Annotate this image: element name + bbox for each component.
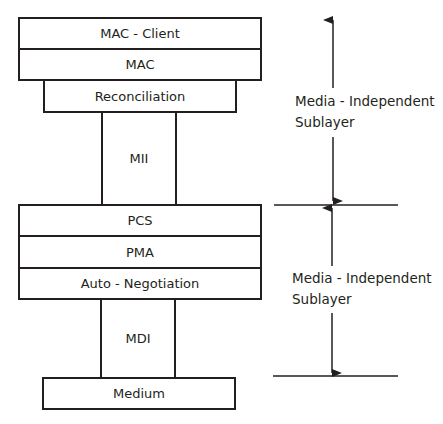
pcs-box: PCS xyxy=(18,204,262,237)
reconciliation-box: Reconciliation xyxy=(43,79,237,113)
pcs-label: PCS xyxy=(127,213,152,228)
mac-box: MAC xyxy=(18,48,262,81)
mdi-box: MDI xyxy=(100,297,176,379)
mdi-label: MDI xyxy=(125,331,150,346)
mac-label: MAC xyxy=(126,57,155,72)
upper-annotation: Media - Independent Sublayer xyxy=(295,91,435,133)
lower-annotation: Media - Independent Sublayer xyxy=(292,268,432,310)
reconciliation-label: Reconciliation xyxy=(95,89,186,104)
pma-box: PMA xyxy=(18,235,262,269)
medium-label: Medium xyxy=(113,386,165,401)
lower-annotation-line2: Sublayer xyxy=(292,289,432,310)
mac-client-box: MAC - Client xyxy=(18,17,262,50)
auto-negotiation-box: Auto - Negotiation xyxy=(18,267,262,300)
mac-client-label: MAC - Client xyxy=(100,26,180,41)
mii-label: MII xyxy=(130,151,149,166)
medium-box: Medium xyxy=(42,377,236,410)
upper-annotation-line1: Media - Independent xyxy=(295,91,435,112)
lower-annotation-line1: Media - Independent xyxy=(292,268,432,289)
pma-label: PMA xyxy=(126,245,154,260)
auto-negotiation-label: Auto - Negotiation xyxy=(81,276,200,291)
upper-annotation-line2: Sublayer xyxy=(295,112,435,133)
mii-box: MII xyxy=(101,110,177,206)
